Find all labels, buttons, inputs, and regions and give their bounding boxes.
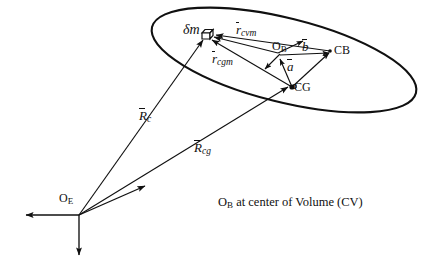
- r-cvm-symbol: r: [236, 22, 241, 37]
- origin-earth-label: OE: [59, 192, 73, 206]
- vector-R-c: [79, 40, 203, 215]
- vector-b-label: b: [302, 38, 309, 54]
- diagram-canvas: [0, 0, 435, 264]
- delta-mass-cube: [202, 30, 213, 40]
- r-cvm-label: rcvm: [236, 21, 256, 39]
- vector-a-symbol: a: [287, 59, 294, 74]
- origin-body-symbol: O: [272, 39, 281, 53]
- vector-a-label: a: [287, 58, 294, 74]
- R-cg-symbol: R: [194, 140, 202, 155]
- R-c-label: Rc: [139, 107, 151, 125]
- origin-earth-subscript: E: [68, 196, 74, 206]
- R-c-symbol: R: [139, 108, 147, 123]
- caption-text: at center of Volume (CV): [233, 195, 363, 209]
- r-cvm-subscript: cvm: [241, 28, 256, 38]
- R-cg-subscript: cg: [202, 146, 211, 156]
- r-cgm-label: rcgm: [212, 50, 233, 68]
- delta-mass-label: δm: [183, 23, 200, 37]
- caption-symbol: O: [218, 195, 227, 209]
- figure-caption: OB at center of Volume (CV): [218, 196, 363, 210]
- r-cgm-subscript: cgm: [217, 57, 233, 67]
- R-cg-label: Rcg: [194, 139, 211, 157]
- R-c-subscript: c: [147, 114, 151, 124]
- origin-body-subscript: B: [281, 44, 287, 54]
- center-of-gravity-label: CG: [294, 81, 311, 93]
- vector-b-symbol: b: [302, 39, 309, 54]
- origin-body-label: OB: [272, 40, 287, 54]
- earth-frame-axes: [26, 186, 145, 255]
- r-cgm-symbol: r: [212, 51, 217, 66]
- origin-earth-symbol: O: [59, 191, 68, 205]
- center-of-buoyancy-marker: [328, 49, 332, 53]
- vector-ob-short-left: [265, 54, 280, 69]
- vector-diagram-figure: δm rcvm rcgm OB b a CB CG Rc Rcg OE OB a…: [0, 0, 435, 264]
- center-of-buoyancy-label: CB: [334, 44, 350, 56]
